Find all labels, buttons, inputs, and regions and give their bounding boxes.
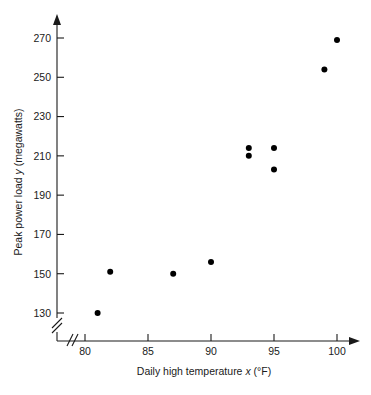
- x-tick-label: 80: [79, 345, 91, 357]
- data-point: [246, 145, 252, 151]
- y-tick-label: 210: [33, 150, 51, 162]
- y-tick-label: 230: [33, 110, 51, 122]
- y-axis-title: Peak power load y (megawatts): [12, 108, 24, 255]
- x-tick-label: 90: [205, 345, 217, 357]
- data-point: [271, 145, 277, 151]
- y-tick-label: 150: [33, 268, 51, 280]
- data-point: [170, 271, 176, 277]
- y-axis-break-icon: [52, 318, 62, 333]
- x-tick-group: 80859095100: [79, 334, 346, 357]
- data-point: [321, 66, 327, 72]
- x-axis-break-icon: [67, 334, 78, 346]
- x-tick-label: 100: [328, 345, 346, 357]
- data-point: [271, 167, 277, 173]
- y-tick-label: 130: [33, 307, 51, 319]
- y-tick-label: 250: [33, 71, 51, 83]
- data-point-group: [95, 37, 340, 316]
- y-tick-label: 170: [33, 228, 51, 240]
- x-tick-label: 85: [142, 345, 154, 357]
- data-point: [107, 269, 113, 275]
- data-point: [208, 259, 214, 265]
- y-tick-group: 130150170190210230250270: [33, 32, 64, 319]
- x-tick-label: 95: [268, 345, 280, 357]
- data-point: [95, 310, 101, 316]
- x-axis-arrow-icon: [349, 337, 360, 345]
- x-axis-title: Daily high temperature x (°F): [137, 365, 271, 377]
- y-tick-label: 270: [33, 32, 51, 44]
- y-tick-label: 190: [33, 189, 51, 201]
- data-point: [334, 37, 340, 43]
- plot-canvas: 130150170190210230250270 80859095100 Pea…: [0, 0, 371, 395]
- scatter-plot-figure: 130150170190210230250270 80859095100 Pea…: [0, 0, 371, 395]
- data-point: [246, 153, 252, 159]
- y-axis: [52, 14, 62, 341]
- y-axis-arrow-icon: [53, 14, 61, 25]
